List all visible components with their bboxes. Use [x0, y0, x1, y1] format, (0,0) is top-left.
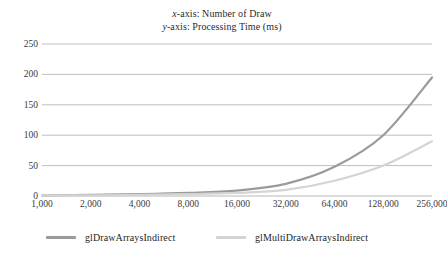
x-axis-tick-label: 64,000 [321, 199, 347, 209]
x-axis-tick-label: 8,000 [178, 199, 199, 209]
x-axis-tick-labels: 1,0002,0004,0008,00016,00032,00064,00012… [42, 199, 432, 213]
legend-label: glDrawArraysIndirect [85, 232, 175, 243]
chart-title-line-y: y-axis: Processing Time (ms) [0, 20, 444, 33]
chart-title: x-axis: Number of Draw y-axis: Processin… [0, 7, 444, 33]
y-axis-title-text: -axis: Processing Time (ms) [167, 21, 282, 32]
legend-swatch-icon [216, 236, 246, 239]
x-axis-tick-label: 128,000 [368, 199, 399, 209]
series-line-1 [42, 141, 432, 195]
y-axis-tick-labels: 050100150200250 [0, 0, 38, 260]
chart-title-line-x: x-axis: Number of Draw [0, 7, 444, 20]
plot-canvas [42, 44, 432, 196]
legend-entry[interactable]: glMultiDrawArraysIndirect [216, 229, 368, 245]
x-axis-tick-label: 32,000 [273, 199, 299, 209]
x-axis-tick-label: 16,000 [224, 199, 250, 209]
legend-swatch-icon [46, 236, 76, 239]
x-axis-title-text: -axis: Number of Draw [177, 8, 272, 19]
y-axis-tick-label: 250 [0, 39, 38, 49]
x-axis-tick-label: 4,000 [129, 199, 150, 209]
legend-label: glMultiDrawArraysIndirect [255, 232, 368, 243]
series-lines [42, 77, 432, 195]
x-axis-tick-label: 2,000 [80, 199, 101, 209]
y-axis-tick-label: 150 [0, 100, 38, 110]
x-axis-tick-label: 256,000 [417, 199, 447, 209]
series-line-0 [42, 77, 432, 195]
plot-area [42, 44, 432, 196]
y-axis-tick-label: 50 [0, 161, 38, 171]
gridlines [42, 44, 432, 196]
legend-entry[interactable]: glDrawArraysIndirect [46, 229, 175, 245]
x-axis-tick-label: 1,000 [31, 199, 52, 209]
y-axis-tick-label: 100 [0, 130, 38, 140]
chart-legend: glDrawArraysIndirectglMultiDrawArraysInd… [0, 229, 444, 249]
y-axis-tick-label: 200 [0, 69, 38, 79]
